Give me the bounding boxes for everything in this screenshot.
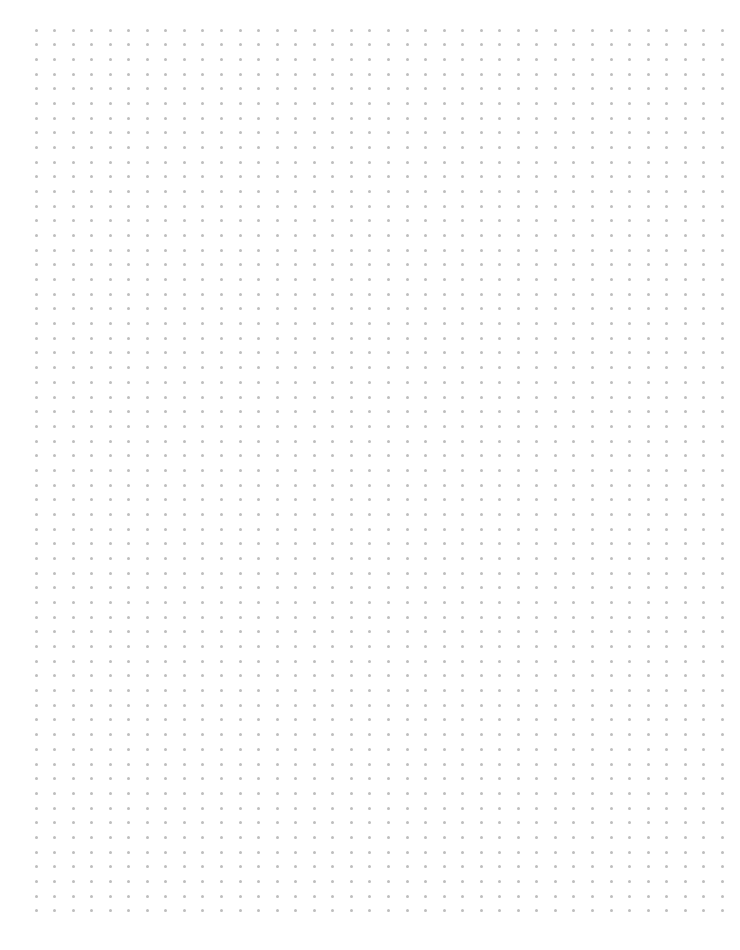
grid-dot <box>517 73 520 76</box>
grid-dot <box>610 278 613 281</box>
grid-dot <box>517 601 520 604</box>
grid-dot <box>572 851 575 854</box>
grid-dot <box>665 586 668 589</box>
grid-dot <box>591 43 594 46</box>
grid-dot <box>146 704 149 707</box>
grid-dot <box>498 102 501 105</box>
grid-dot <box>276 146 279 149</box>
grid-dot <box>313 498 316 501</box>
grid-dot <box>684 821 687 824</box>
grid-dot <box>665 234 668 237</box>
grid-dot <box>572 513 575 516</box>
grid-dot <box>294 601 297 604</box>
grid-dot <box>610 366 613 369</box>
grid-dot <box>276 396 279 399</box>
grid-dot <box>90 117 93 120</box>
grid-dot <box>127 704 130 707</box>
grid-dot <box>702 674 705 677</box>
grid-dot <box>387 718 390 721</box>
grid-dot <box>721 836 724 839</box>
grid-dot <box>109 337 112 340</box>
grid-dot <box>239 733 242 736</box>
grid-dot <box>443 733 446 736</box>
grid-dot <box>554 131 557 134</box>
grid-dot <box>387 630 390 633</box>
grid-dot <box>628 469 631 472</box>
grid-dot <box>665 396 668 399</box>
grid-dot <box>610 763 613 766</box>
grid-dot <box>368 836 371 839</box>
grid-dot <box>554 396 557 399</box>
grid-dot <box>146 542 149 545</box>
grid-dot <box>164 807 167 810</box>
grid-dot <box>146 895 149 898</box>
grid-dot <box>480 440 483 443</box>
grid-dot <box>424 337 427 340</box>
grid-dot <box>480 777 483 780</box>
grid-dot <box>146 454 149 457</box>
grid-dot <box>276 601 279 604</box>
grid-dot <box>146 763 149 766</box>
grid-dot <box>721 616 724 619</box>
grid-dot <box>294 278 297 281</box>
grid-dot <box>294 704 297 707</box>
grid-dot <box>443 586 446 589</box>
grid-dot <box>294 484 297 487</box>
grid-dot <box>368 58 371 61</box>
grid-dot <box>109 645 112 648</box>
grid-dot <box>220 777 223 780</box>
grid-dot <box>721 278 724 281</box>
grid-dot <box>257 307 260 310</box>
grid-dot <box>591 102 594 105</box>
grid-dot <box>406 396 409 399</box>
grid-dot <box>443 513 446 516</box>
grid-dot <box>517 484 520 487</box>
grid-dot <box>591 616 594 619</box>
grid-dot <box>257 366 260 369</box>
grid-dot <box>610 557 613 560</box>
grid-dot <box>387 616 390 619</box>
grid-dot <box>647 293 650 296</box>
grid-dot <box>368 601 371 604</box>
grid-dot <box>702 381 705 384</box>
grid-dot <box>665 58 668 61</box>
grid-dot <box>201 674 204 677</box>
grid-dot <box>331 43 334 46</box>
grid-dot <box>517 43 520 46</box>
grid-dot <box>368 366 371 369</box>
grid-dot <box>647 351 650 354</box>
grid-dot <box>517 542 520 545</box>
grid-dot <box>535 542 538 545</box>
grid-dot <box>350 58 353 61</box>
grid-dot <box>146 821 149 824</box>
grid-dot <box>350 454 353 457</box>
grid-dot <box>350 351 353 354</box>
grid-dot <box>406 718 409 721</box>
grid-dot <box>684 175 687 178</box>
grid-dot <box>164 616 167 619</box>
grid-dot <box>721 542 724 545</box>
grid-dot <box>368 249 371 252</box>
grid-dot <box>702 205 705 208</box>
grid-dot <box>313 205 316 208</box>
grid-dot <box>610 249 613 252</box>
grid-dot <box>257 909 260 912</box>
grid-dot <box>591 763 594 766</box>
grid-dot <box>424 454 427 457</box>
grid-dot <box>164 909 167 912</box>
grid-dot <box>424 542 427 545</box>
grid-dot <box>201 557 204 560</box>
grid-dot <box>665 278 668 281</box>
grid-dot <box>35 102 38 105</box>
grid-dot <box>684 102 687 105</box>
grid-dot <box>406 381 409 384</box>
grid-dot <box>164 777 167 780</box>
grid-dot <box>461 307 464 310</box>
grid-dot <box>572 175 575 178</box>
grid-dot <box>276 821 279 824</box>
grid-dot <box>35 469 38 472</box>
grid-dot <box>665 381 668 384</box>
grid-dot <box>239 616 242 619</box>
grid-dot <box>684 29 687 32</box>
grid-dot <box>535 601 538 604</box>
